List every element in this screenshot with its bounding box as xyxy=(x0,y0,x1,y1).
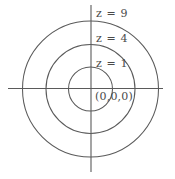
label-origin-point: (0,0,0) xyxy=(95,91,133,102)
figure-canvas xyxy=(0,0,175,179)
label-z-equals-1: z = 1 xyxy=(96,58,128,69)
label-z-equals-4: z = 4 xyxy=(96,33,128,44)
level-surfaces-figure: z = 9 z = 4 z = 1 (0,0,0) xyxy=(0,0,175,179)
label-z-equals-9: z = 9 xyxy=(96,8,128,19)
